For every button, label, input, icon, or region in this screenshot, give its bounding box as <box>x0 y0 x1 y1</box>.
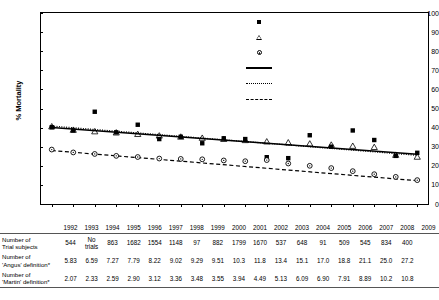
table-cell: 3.12 <box>144 270 165 288</box>
table-cell: 3.94 <box>228 270 249 288</box>
table-col-header: 1992 <box>60 222 81 234</box>
legend-marker <box>246 83 272 84</box>
table-cell: 97 <box>186 234 207 252</box>
table-cell: 21.1 <box>355 252 376 270</box>
x-tick-mark-1994 <box>95 204 96 207</box>
table-cell: 13.4 <box>270 252 291 270</box>
table-cell: 6.90 <box>313 270 334 288</box>
x-tick-mark-2006 <box>353 204 354 207</box>
series-angus-criteria <box>49 147 419 182</box>
series-multicenter-trials <box>50 110 420 161</box>
table-col-header: 2005 <box>334 222 355 234</box>
table-cell: 3.48 <box>186 270 207 288</box>
table-col-header: 2002 <box>270 222 291 234</box>
table-col-header: 1993 <box>81 222 102 234</box>
table-col-header: 2000 <box>228 222 249 234</box>
table-col-header: 2004 <box>313 222 334 234</box>
table-body: Number ofTrial subjects544Notrials863168… <box>0 234 439 288</box>
row-label-line-2: 'Angus' definition* <box>2 261 60 268</box>
table-cell: 10.2 <box>376 270 397 288</box>
x-tick-mark-2004 <box>310 204 311 207</box>
table-cell-empty <box>418 234 439 252</box>
table-cell: 17.0 <box>313 252 334 270</box>
x-tick-mark-2003 <box>288 204 289 207</box>
table-col-header: 1995 <box>123 222 144 234</box>
table-cell: 10.3 <box>228 252 249 270</box>
chart-region: % Mortality Year 0102030405060708090100 <box>0 0 439 222</box>
table-row: Number of'Angus' definition*5.836.597.27… <box>0 252 439 270</box>
table-col-header: 2006 <box>355 222 376 234</box>
x-tick-mark-1997 <box>159 204 160 207</box>
table-col-header: 2008 <box>397 222 418 234</box>
table-col-header: 2003 <box>292 222 313 234</box>
table-cell: 1799 <box>228 234 249 252</box>
row-label-line-1: Number of <box>2 271 60 278</box>
legend-item <box>246 61 426 77</box>
table-cell: 509 <box>334 234 355 252</box>
table-cell: 545 <box>355 234 376 252</box>
table-cell: 3.36 <box>165 270 186 288</box>
table-cell: 537 <box>270 234 291 252</box>
table-col-header: 1997 <box>165 222 186 234</box>
table-cell: 1148 <box>165 234 186 252</box>
table-row-label: Number of'Martin' definition* <box>0 270 60 288</box>
chart-legend <box>246 14 426 107</box>
legend-item <box>246 92 426 108</box>
table-cell: 25.0 <box>376 252 397 270</box>
legend-item <box>246 76 426 92</box>
x-tick-mark-2009 <box>417 204 418 207</box>
x-tick-mark-2007 <box>374 204 375 207</box>
table-cell: 9.02 <box>165 252 186 270</box>
legend-item <box>246 30 426 46</box>
table-cell: 91 <box>313 234 334 252</box>
table-cell: 2.90 <box>123 270 144 288</box>
table-cell: 8.89 <box>355 270 376 288</box>
table-col-header: 2009 <box>418 222 439 234</box>
table-cell: 7.79 <box>123 252 144 270</box>
table-cell: 27.2 <box>397 252 418 270</box>
row-label-line-2: Trial subjects <box>2 243 60 250</box>
table-cell: 7.91 <box>334 270 355 288</box>
table-cell: 544 <box>60 234 81 252</box>
legend-marker <box>246 67 272 69</box>
x-tick-mark-1992 <box>52 204 53 207</box>
table-cell: 1682 <box>123 234 144 252</box>
x-tick-mark-1995 <box>116 204 117 207</box>
table-cell: 6.09 <box>292 270 313 288</box>
table-row: Number ofTrial subjects544Notrials863168… <box>0 234 439 252</box>
open-circle-icon <box>257 50 262 55</box>
x-tick-mark-1998 <box>181 204 182 207</box>
table-cell: 5.13 <box>270 270 291 288</box>
y-tick-mark <box>40 204 43 205</box>
table-cell: 2.59 <box>102 270 123 288</box>
table-header-row: 1992199319941995199619971998199920002001… <box>0 222 439 234</box>
x-tick-mark-1993 <box>73 204 74 207</box>
table-corner-cell <box>0 222 60 234</box>
table-cell: 11.8 <box>249 252 270 270</box>
legend-item <box>246 45 426 61</box>
x-tick-mark-1999 <box>202 204 203 207</box>
table-cell: 9.51 <box>207 252 228 270</box>
open-triangle-icon <box>256 35 262 40</box>
legend-item <box>246 14 426 30</box>
x-tick-mark-2001 <box>245 204 246 207</box>
table-cell: 18.8 <box>334 252 355 270</box>
table-cell: 834 <box>376 234 397 252</box>
table-col-header: 2007 <box>376 222 397 234</box>
table-cell: 2.07 <box>60 270 81 288</box>
row-label-line-1: Number of <box>2 236 60 243</box>
table-cell: 5.83 <box>60 252 81 270</box>
table-col-header: 2001 <box>249 222 270 234</box>
table-cell: 15.1 <box>292 252 313 270</box>
data-table-region: 1992199319941995199619971998199920002001… <box>0 222 439 300</box>
row-label-line-1: Number of <box>2 253 60 260</box>
legend-marker <box>246 99 272 100</box>
table-cell: 648 <box>292 234 313 252</box>
table-cell: 9.29 <box>186 252 207 270</box>
table-cell: Notrials <box>81 234 102 252</box>
table-cell: 882 <box>207 234 228 252</box>
solid-line-icon <box>246 67 272 69</box>
row-label-line-2: 'Martin' definition* <box>2 278 60 285</box>
legend-marker <box>246 50 272 55</box>
x-tick-mark-2000 <box>224 204 225 207</box>
